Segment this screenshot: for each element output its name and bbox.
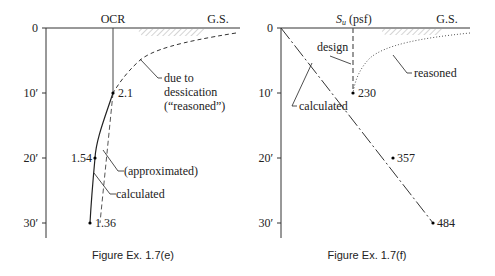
reasoned-curve bbox=[353, 33, 470, 93]
tick-10: 10′ bbox=[23, 86, 38, 100]
tick-0: 0 bbox=[32, 21, 38, 35]
annotation-dessication: dessication bbox=[164, 85, 217, 99]
figure-f: 0 10′ 20′ 30′ Su (psf) G.S. 230 357 484 … bbox=[258, 12, 470, 261]
annotation-design: design bbox=[317, 40, 348, 54]
tick-20: 20′ bbox=[23, 151, 38, 165]
calculated-line bbox=[281, 28, 433, 223]
tick-30: 30′ bbox=[258, 216, 273, 230]
caption-e: Figure Ex. 1.7(e) bbox=[92, 249, 174, 261]
ground-hatch bbox=[380, 29, 445, 35]
annotation-due-to: due to bbox=[164, 71, 194, 85]
gs-label: G.S. bbox=[436, 12, 457, 26]
point-label-230: 230 bbox=[358, 86, 376, 100]
annotation-calculated: calculated bbox=[116, 187, 165, 201]
ground-hatch bbox=[137, 29, 205, 36]
annotation-reasoned: (“reasoned”) bbox=[164, 99, 225, 113]
tick-20: 20′ bbox=[258, 151, 273, 165]
axis-label-su: Su (psf) bbox=[336, 12, 372, 27]
point-label-484: 484 bbox=[437, 216, 455, 230]
tick-30: 30′ bbox=[23, 216, 38, 230]
leader-design bbox=[330, 56, 351, 64]
point-label-2-1: 2.1 bbox=[118, 86, 133, 100]
axis-label-ocr: OCR bbox=[101, 12, 126, 26]
tick-0: 0 bbox=[267, 21, 273, 35]
annotation-calculated: calculated bbox=[299, 99, 348, 113]
point-label-1-36: 1.36 bbox=[95, 216, 116, 230]
leader-reasoned bbox=[393, 55, 412, 73]
annotation-reasoned: reasoned bbox=[414, 66, 457, 80]
point-label-357: 357 bbox=[397, 151, 415, 165]
point-label-1-54: 1.54 bbox=[71, 151, 92, 165]
gs-label: G.S. bbox=[207, 12, 228, 26]
figure-e: 0 10′ 20′ 30′ OCR G.S. 2.1 1.54 1.36 due… bbox=[23, 12, 240, 261]
figure-canvas: 0 10′ 20′ 30′ OCR G.S. 2.1 1.54 1.36 due… bbox=[0, 0, 495, 276]
tick-10: 10′ bbox=[258, 86, 273, 100]
leader-reasoned bbox=[140, 59, 162, 78]
annotation-approximated: (approximated) bbox=[124, 164, 198, 178]
caption-f: Figure Ex. 1.7(f) bbox=[328, 249, 407, 261]
